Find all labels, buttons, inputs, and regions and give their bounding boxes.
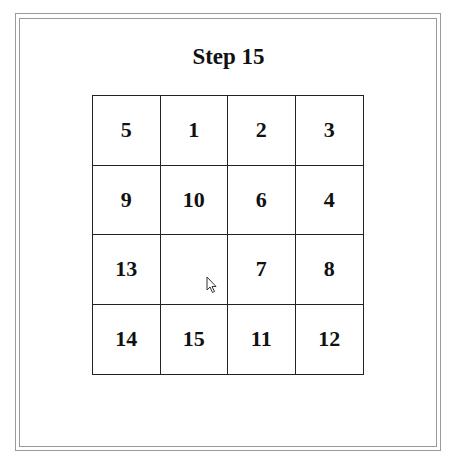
tile-7[interactable]: 6 <box>228 166 296 236</box>
puzzle-board: 5 1 2 3 9 10 6 4 13 7 8 14 15 11 12 <box>92 95 364 375</box>
tile-6[interactable]: 10 <box>161 166 229 236</box>
tile-16[interactable]: 12 <box>296 305 364 375</box>
arrow-cursor-icon <box>206 276 218 294</box>
empty-tile[interactable] <box>161 235 229 305</box>
tile-11[interactable]: 7 <box>228 235 296 305</box>
tile-2[interactable]: 1 <box>161 96 229 166</box>
tile-5[interactable]: 9 <box>93 166 161 236</box>
step-title: Step 15 <box>0 44 457 70</box>
tile-1[interactable]: 5 <box>93 96 161 166</box>
tile-13[interactable]: 14 <box>93 305 161 375</box>
tile-15[interactable]: 11 <box>228 305 296 375</box>
tile-14[interactable]: 15 <box>161 305 229 375</box>
tile-9[interactable]: 13 <box>93 235 161 305</box>
tile-3[interactable]: 2 <box>228 96 296 166</box>
tile-8[interactable]: 4 <box>296 166 364 236</box>
tile-12[interactable]: 8 <box>296 235 364 305</box>
tile-4[interactable]: 3 <box>296 96 364 166</box>
